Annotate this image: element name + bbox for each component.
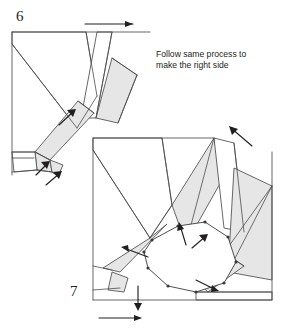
ring-vertex-dot [150, 238, 153, 241]
arrow-head [121, 245, 129, 252]
ring-vertex-dot [194, 290, 197, 293]
diagram-canvas: 6 [0, 0, 282, 331]
caption-line-2: make the right side [156, 60, 229, 70]
arrow-head [229, 126, 238, 135]
arrow-head [134, 303, 142, 311]
caption-line-1: Follow same process to [156, 49, 246, 59]
ring-vertex-dot [142, 250, 145, 253]
step-7-figure [93, 126, 272, 321]
lower-right-white-region [196, 292, 272, 300]
ring-vertex-dot [203, 220, 206, 223]
ring-vertex-dot [166, 284, 169, 287]
bottom-fold-arrow-icon [46, 171, 62, 185]
bottom-translate-arrow-icon [99, 315, 142, 321]
arrow-head [134, 315, 142, 321]
ring-vertex-dot [146, 266, 149, 269]
ring-vertex-dot [234, 260, 237, 263]
lower-left-white-cell [12, 152, 37, 172]
top-translate-arrow-icon [85, 21, 133, 27]
ring-vertex-dot [222, 281, 225, 284]
step-7-group: 7 [70, 126, 272, 321]
origami-diagram-root: 6 [0, 0, 282, 331]
instruction-caption: Follow same process to make the right si… [156, 49, 246, 70]
step-6-number: 6 [16, 8, 24, 24]
arrow-head [125, 21, 133, 27]
bottom-drop-arrow-icon [134, 286, 142, 311]
step-7-number: 7 [70, 283, 78, 299]
ring-vertex-dot [226, 235, 229, 238]
